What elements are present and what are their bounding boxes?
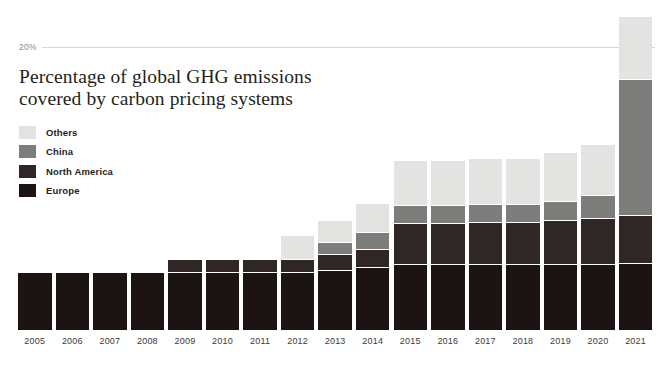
bar-segment-2016-others — [431, 161, 465, 206]
x-axis-tick-label-2007: 2007 — [89, 336, 131, 346]
bar-segment-2013-north-america — [318, 255, 352, 270]
bar-segment-2018-others — [506, 159, 540, 205]
bar-stack-2010 — [206, 260, 240, 330]
bar-segment-2020-others — [581, 145, 615, 197]
x-axis-tick-label-2016: 2016 — [427, 336, 469, 346]
bar-stack-2011 — [243, 260, 277, 330]
bar-segment-2016-china — [431, 206, 465, 224]
x-axis: 2005200620072008200920102011201220132014… — [0, 336, 659, 356]
bar-stack-2014 — [356, 204, 390, 330]
x-axis-tick-label-2008: 2008 — [127, 336, 169, 346]
bar-stack-2009 — [168, 260, 202, 330]
bar-segment-2017-others — [469, 159, 503, 205]
x-axis-tick-label-2010: 2010 — [202, 336, 244, 346]
bar-stack-2021 — [619, 17, 653, 330]
bar-segment-2013-europe — [318, 271, 352, 330]
bar-segment-2018-north-america — [506, 223, 540, 265]
bar-segment-2009-north-america — [168, 260, 202, 274]
x-axis-tick-label-2012: 2012 — [277, 336, 319, 346]
bar-stack-2007 — [93, 273, 127, 330]
bar-segment-2019-europe — [544, 265, 578, 330]
x-axis-tick-label-2006: 2006 — [52, 336, 94, 346]
bar-segment-2011-europe — [243, 273, 277, 330]
x-axis-tick-label-2020: 2020 — [577, 336, 619, 346]
bar-stack-2005 — [18, 273, 52, 330]
x-axis-tick-label-2019: 2019 — [540, 336, 582, 346]
bar-segment-2017-china — [469, 205, 503, 223]
bar-segment-2020-europe — [581, 265, 615, 330]
bar-stack-2019 — [544, 153, 578, 330]
bar-segment-2013-china — [318, 243, 352, 255]
bar-stack-2008 — [131, 273, 165, 330]
bar-segment-2006-europe — [56, 273, 90, 330]
x-axis-tick-label-2018: 2018 — [502, 336, 544, 346]
x-axis-tick-label-2017: 2017 — [465, 336, 507, 346]
bar-segment-2021-north-america — [619, 216, 653, 264]
bar-segment-2017-europe — [469, 265, 503, 330]
chart-container: 20% Percentage of global GHG emissions c… — [0, 0, 659, 376]
bar-segment-2014-china — [356, 233, 390, 250]
bar-stack-2015 — [394, 161, 428, 330]
bar-segment-2005-europe — [18, 273, 52, 330]
bar-segment-2008-europe — [131, 273, 165, 330]
bar-segment-2019-north-america — [544, 221, 578, 264]
bar-stack-2013 — [318, 221, 352, 330]
bar-stack-2012 — [281, 236, 315, 330]
bar-segment-2018-china — [506, 205, 540, 223]
bar-segment-2012-others — [281, 236, 315, 260]
bar-segment-2016-north-america — [431, 224, 465, 265]
bar-segment-2010-europe — [206, 273, 240, 330]
bar-segment-2014-others — [356, 204, 390, 233]
bar-stack-2006 — [56, 273, 90, 330]
x-axis-tick-label-2005: 2005 — [14, 336, 56, 346]
x-axis-tick-label-2021: 2021 — [615, 336, 657, 346]
x-axis-tick-label-2013: 2013 — [314, 336, 356, 346]
bar-segment-2009-europe — [168, 273, 202, 330]
bar-segment-2019-china — [544, 202, 578, 221]
bar-segment-2010-north-america — [206, 260, 240, 274]
bar-segment-2019-others — [544, 153, 578, 202]
bar-segment-2014-north-america — [356, 250, 390, 268]
bar-segment-2015-others — [394, 161, 428, 206]
bar-stack-2020 — [581, 145, 615, 331]
bar-segment-2021-others — [619, 17, 653, 80]
bar-segment-2012-north-america — [281, 260, 315, 274]
bar-segment-2021-china — [619, 80, 653, 215]
bar-segment-2020-north-america — [581, 219, 615, 265]
bar-segment-2018-europe — [506, 265, 540, 330]
bar-segment-2015-china — [394, 206, 428, 224]
bar-stack-2017 — [469, 159, 503, 330]
x-axis-tick-label-2014: 2014 — [352, 336, 394, 346]
bar-segment-2012-europe — [281, 273, 315, 330]
bar-segment-2013-others — [318, 221, 352, 243]
bar-segment-2015-north-america — [394, 224, 428, 265]
bar-segment-2020-china — [581, 196, 615, 218]
bar-segment-2007-europe — [93, 273, 127, 330]
bar-segment-2014-europe — [356, 268, 390, 330]
bar-segment-2017-north-america — [469, 223, 503, 265]
x-axis-tick-label-2015: 2015 — [390, 336, 432, 346]
bar-segment-2016-europe — [431, 265, 465, 330]
bar-stack-2016 — [431, 161, 465, 330]
bar-segment-2015-europe — [394, 265, 428, 330]
bar-stack-2018 — [506, 159, 540, 330]
x-axis-tick-label-2009: 2009 — [164, 336, 206, 346]
x-axis-tick-label-2011: 2011 — [239, 336, 281, 346]
bar-segment-2011-north-america — [243, 260, 277, 274]
bar-segment-2021-europe — [619, 264, 653, 331]
plot-area — [0, 0, 659, 330]
